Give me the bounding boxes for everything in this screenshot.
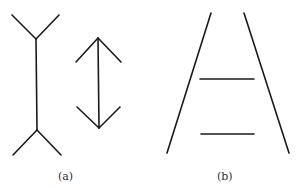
figure-drawing [0, 0, 298, 188]
muller-lyer-fins-out [12, 15, 61, 155]
muller-lyer-arrowheads [76, 38, 121, 128]
panel-label-b: (b) [217, 170, 233, 183]
illusion-figure: (a) (b) [0, 0, 298, 188]
panel-label-a: (a) [58, 170, 73, 183]
ponzo-illusion [167, 13, 289, 153]
